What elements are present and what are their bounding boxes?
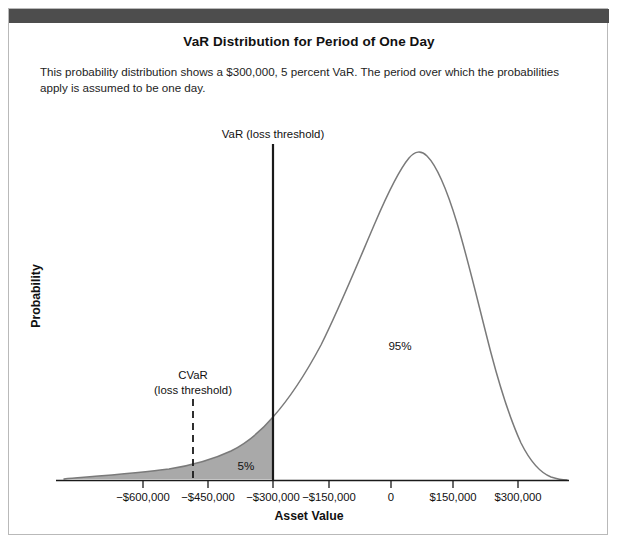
- probability-density-curve: [64, 152, 567, 480]
- x-tick-label-5: $150,000: [429, 491, 476, 503]
- x-axis-title: Asset Value: [9, 509, 609, 523]
- figure-panel: VaR Distribution for Period of One Day T…: [8, 8, 608, 535]
- distribution-plot-svg: [9, 9, 609, 536]
- body-percent-label: 95%: [388, 339, 411, 352]
- x-tick-label-2: −$300,000: [246, 491, 300, 503]
- x-tick-label-6: $300,000: [494, 491, 541, 503]
- plot-area: VaR (loss threshold) CVaR (loss threshol…: [9, 9, 609, 536]
- var-threshold-annotation: VaR (loss threshold): [222, 127, 324, 141]
- tail-percent-label: 5%: [238, 459, 255, 472]
- cvar-threshold-annotation-line2: (loss threshold): [154, 383, 232, 397]
- x-tick-label-1: −$450,000: [181, 491, 235, 503]
- x-tick-label-0: −$600,000: [116, 491, 170, 503]
- x-axis-ticks: [143, 481, 518, 489]
- x-tick-label-3: −$150,000: [302, 491, 356, 503]
- cvar-threshold-annotation-line1: CVaR: [178, 368, 208, 382]
- x-tick-label-4: 0: [388, 491, 394, 503]
- y-axis-title: Probability: [29, 241, 43, 351]
